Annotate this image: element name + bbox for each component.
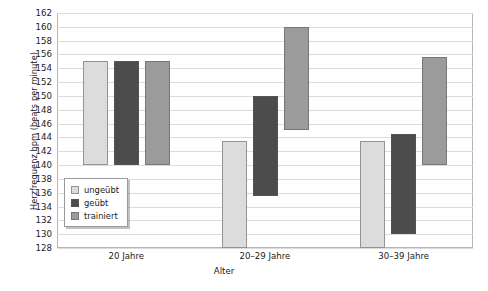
bar-chart: Herzfrequenz bpm (beats per minute) 1281…: [0, 0, 488, 291]
legend-item: geübt: [71, 196, 119, 209]
legend-swatch-icon: [71, 199, 79, 207]
bar: [422, 57, 447, 166]
legend-item: ungeübt: [71, 183, 119, 196]
legend-label: ungeübt: [84, 185, 119, 195]
y-tick-label: 160: [36, 22, 52, 32]
gridline: [57, 27, 473, 28]
y-tick-label: 162: [36, 8, 52, 18]
y-tick-label: 150: [36, 91, 52, 101]
gridline: [57, 248, 473, 249]
y-tick-label: 148: [36, 105, 52, 115]
legend-label: geübt: [84, 198, 108, 208]
y-tick-label: 128: [36, 243, 52, 253]
gridline: [57, 13, 473, 14]
y-tick-label: 130: [36, 229, 52, 239]
y-tick-label: 132: [36, 215, 52, 225]
y-tick-label: 134: [36, 202, 52, 212]
y-tick-label: 142: [36, 146, 52, 156]
legend-item: trainiert: [71, 209, 119, 222]
x-axis-title: Alter: [0, 266, 488, 276]
y-tick-label: 146: [36, 119, 52, 129]
x-axis-title-text: Alter: [214, 266, 234, 276]
gridline: [57, 54, 473, 55]
bar: [391, 134, 416, 234]
legend-label: trainiert: [84, 211, 118, 221]
y-tick-label: 156: [36, 49, 52, 59]
y-tick-label: 152: [36, 77, 52, 87]
y-tick-label: 140: [36, 160, 52, 170]
y-tick-label: 144: [36, 132, 52, 142]
bar: [284, 27, 309, 131]
bar: [222, 141, 247, 248]
y-tick-label: 138: [36, 174, 52, 184]
x-tick-label: 30–39 Jahre: [378, 251, 429, 261]
y-tick-label: 158: [36, 36, 52, 46]
bar: [360, 141, 385, 248]
legend-swatch-icon: [71, 212, 79, 220]
gridline: [57, 41, 473, 42]
y-tick-label: 154: [36, 63, 52, 73]
bar: [253, 96, 278, 196]
bar: [114, 61, 139, 165]
chart-legend: ungeübtgeübttrainiert: [64, 178, 128, 227]
x-tick-label: 20 Jahre: [109, 251, 145, 261]
gridline: [57, 234, 473, 235]
bar: [145, 61, 170, 165]
x-tick-label: 20–29 Jahre: [240, 251, 291, 261]
y-tick-label: 136: [36, 188, 52, 198]
bar: [83, 61, 108, 165]
legend-swatch-icon: [71, 186, 79, 194]
